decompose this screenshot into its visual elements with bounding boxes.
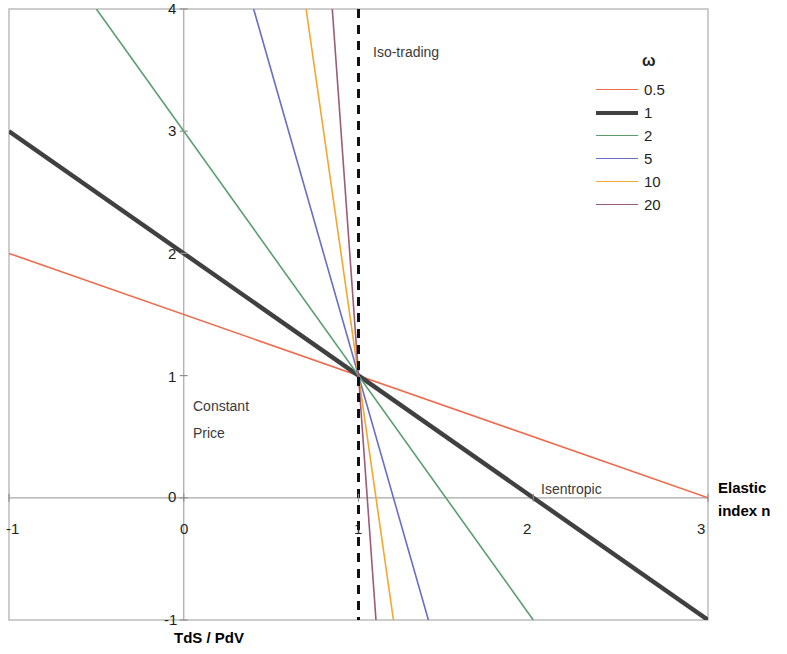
y-tick-label-3: 3 — [168, 122, 176, 139]
y-axis-title: TdS / PdV — [174, 627, 244, 650]
legend-items: 0.51251020 — [596, 78, 726, 216]
x-tick-label-2: 2 — [523, 520, 531, 537]
legend: ω 0.51251020 — [596, 52, 726, 216]
legend-item-0-5[interactable]: 0.5 — [596, 78, 726, 101]
x-axis-title: Elastic index n — [718, 477, 771, 522]
y-tick-label-4: 4 — [168, 0, 176, 17]
legend-item-10[interactable]: 10 — [596, 170, 726, 193]
y-tick-label-neg1: -1 — [164, 611, 177, 628]
legend-label-0-5: 0.5 — [644, 82, 665, 97]
legend-label-2: 2 — [644, 128, 652, 143]
annotation-isentropic: Isentropic — [541, 481, 602, 497]
x-axis-title-line1: Elastic — [718, 477, 771, 500]
legend-label-1: 1 — [644, 105, 652, 120]
chart-figure: 4 3 2 1 0 -1 -1 0 1 2 3 Iso-trading Cons… — [0, 0, 787, 654]
annotation-constant-price-line2: Price — [193, 425, 225, 441]
legend-item-5[interactable]: 5 — [596, 147, 726, 170]
legend-label-10: 10 — [644, 174, 661, 189]
x-axis-title-line2: index n — [718, 500, 771, 523]
legend-item-2[interactable]: 2 — [596, 124, 726, 147]
x-tick-label-1: 1 — [354, 520, 362, 537]
legend-item-1[interactable]: 1 — [596, 101, 726, 124]
annotation-constant-price-line1: Constant — [193, 398, 249, 414]
legend-swatch-20 — [596, 204, 638, 205]
legend-label-5: 5 — [644, 151, 652, 166]
y-tick-label-0: 0 — [168, 488, 176, 505]
legend-item-20[interactable]: 20 — [596, 193, 726, 216]
legend-swatch-1 — [596, 111, 638, 115]
y-tick-label-2: 2 — [168, 245, 176, 262]
legend-swatch-5 — [596, 158, 638, 159]
legend-title: ω — [596, 52, 726, 70]
legend-label-20: 20 — [644, 197, 661, 212]
x-tick-label-neg1: -1 — [6, 520, 19, 537]
x-tick-label-3: 3 — [697, 520, 705, 537]
y-tick-label-1: 1 — [168, 368, 176, 385]
x-tick-label-0: 0 — [180, 520, 188, 537]
annotation-iso-trading: Iso-trading — [373, 44, 439, 60]
legend-swatch-2 — [596, 135, 638, 136]
legend-swatch-0-5 — [596, 89, 638, 90]
legend-swatch-10 — [596, 181, 638, 182]
